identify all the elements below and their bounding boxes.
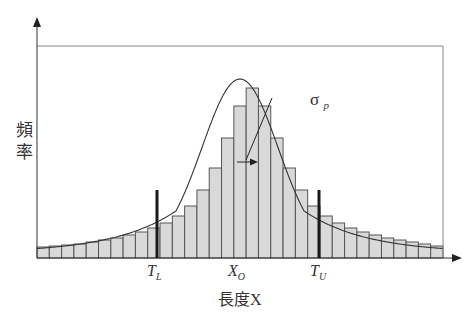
- histogram-bar: [234, 106, 246, 258]
- histogram-bar: [197, 190, 209, 258]
- tick-center-main: X: [228, 262, 238, 279]
- tick-center-sub: O: [238, 271, 245, 282]
- histogram-bar: [185, 206, 197, 258]
- tick-lower-limit-sub: L: [156, 271, 162, 282]
- sigma-symbol: σ: [310, 90, 319, 109]
- x-axis-arrow-icon: [452, 254, 462, 262]
- histogram-bar: [160, 223, 172, 258]
- y-axis-label-char2: 率: [14, 142, 34, 164]
- tick-center: XO: [228, 262, 245, 282]
- tick-lower-limit-main: T: [147, 262, 156, 279]
- histogram-bar: [123, 235, 135, 258]
- tick-upper-limit: TU: [310, 262, 326, 282]
- histogram-bar: [295, 190, 307, 258]
- sigma-subscript: p: [323, 99, 329, 111]
- sigma-annotation: σ p: [310, 90, 329, 111]
- y-axis-arrow-icon: [33, 17, 41, 27]
- tick-lower-limit: TL: [147, 262, 161, 282]
- histogram-bar: [62, 245, 74, 258]
- x-axis-label: 長度X: [218, 286, 262, 310]
- y-axis-label-char1: 頻: [14, 120, 34, 142]
- lower-limit-marker: [156, 190, 159, 258]
- histogram-bar: [283, 168, 295, 258]
- tick-upper-limit-main: T: [310, 262, 319, 279]
- histogram-bar: [394, 240, 406, 258]
- histogram-bar: [246, 88, 258, 258]
- y-axis-label: 頻 率: [14, 120, 34, 164]
- histogram-bar: [406, 242, 418, 258]
- histogram-bar: [74, 244, 86, 258]
- histogram-bar: [258, 106, 270, 258]
- histogram-bar: [86, 242, 98, 258]
- histogram-bar: [345, 228, 357, 258]
- histogram-bar: [135, 232, 147, 258]
- tick-upper-limit-sub: U: [319, 271, 326, 282]
- histogram-bar: [99, 240, 111, 258]
- histogram-bar: [320, 216, 332, 258]
- histogram-bar: [111, 238, 123, 258]
- upper-limit-marker: [318, 190, 321, 258]
- histogram-bar: [209, 168, 221, 258]
- histogram-bars: [37, 88, 443, 258]
- histogram-bar: [172, 216, 184, 258]
- histogram-bar: [222, 138, 234, 258]
